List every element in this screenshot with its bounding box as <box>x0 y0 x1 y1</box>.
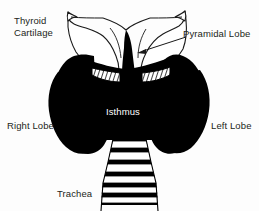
trachea <box>95 139 165 211</box>
label-thyroid-cartilage-line1: Thyroid <box>14 15 46 26</box>
label-isthmus: Isthmus <box>106 106 140 118</box>
label-right-lobe: Right Lobe <box>7 120 54 132</box>
label-left-lobe: Left Lobe <box>211 120 252 132</box>
label-thyroid-cartilage-line2: Cartilage <box>14 27 53 38</box>
label-thyroid-cartilage: ThyroidCartilage <box>14 15 53 38</box>
thyroid-anatomy-figure: ThyroidCartilage Pyramidal Lobe Right Lo… <box>0 0 259 211</box>
label-trachea: Trachea <box>57 188 92 200</box>
label-pyramidal-lobe: Pyramidal Lobe <box>183 28 250 40</box>
pyramidal-lobe <box>122 30 135 74</box>
